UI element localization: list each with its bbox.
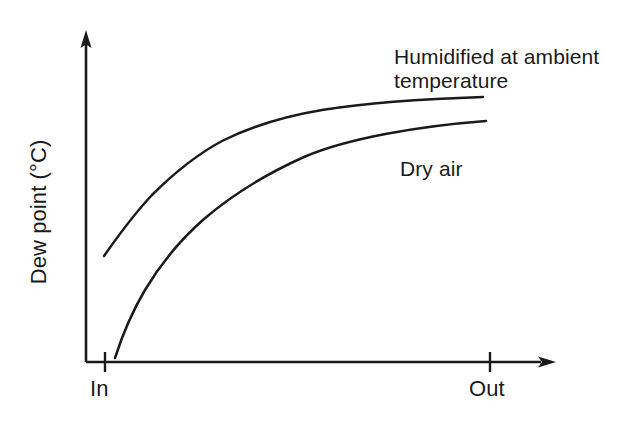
series-label-humidified-line-2: temperature [394,69,508,92]
chart-canvas: Dew point (°C) In Out Humidified at ambi… [0,0,627,423]
x-tick-label-out: Out [469,376,505,401]
y-axis-title: Dew point (°C) [26,140,51,285]
series-label-humidified-line-1: Humidified at ambient [394,45,599,68]
series-label-dry-air: Dry air [400,157,463,180]
chart-figure: Dew point (°C) In Out Humidified at ambi… [0,0,627,423]
x-tick-label-in: In [90,376,109,401]
